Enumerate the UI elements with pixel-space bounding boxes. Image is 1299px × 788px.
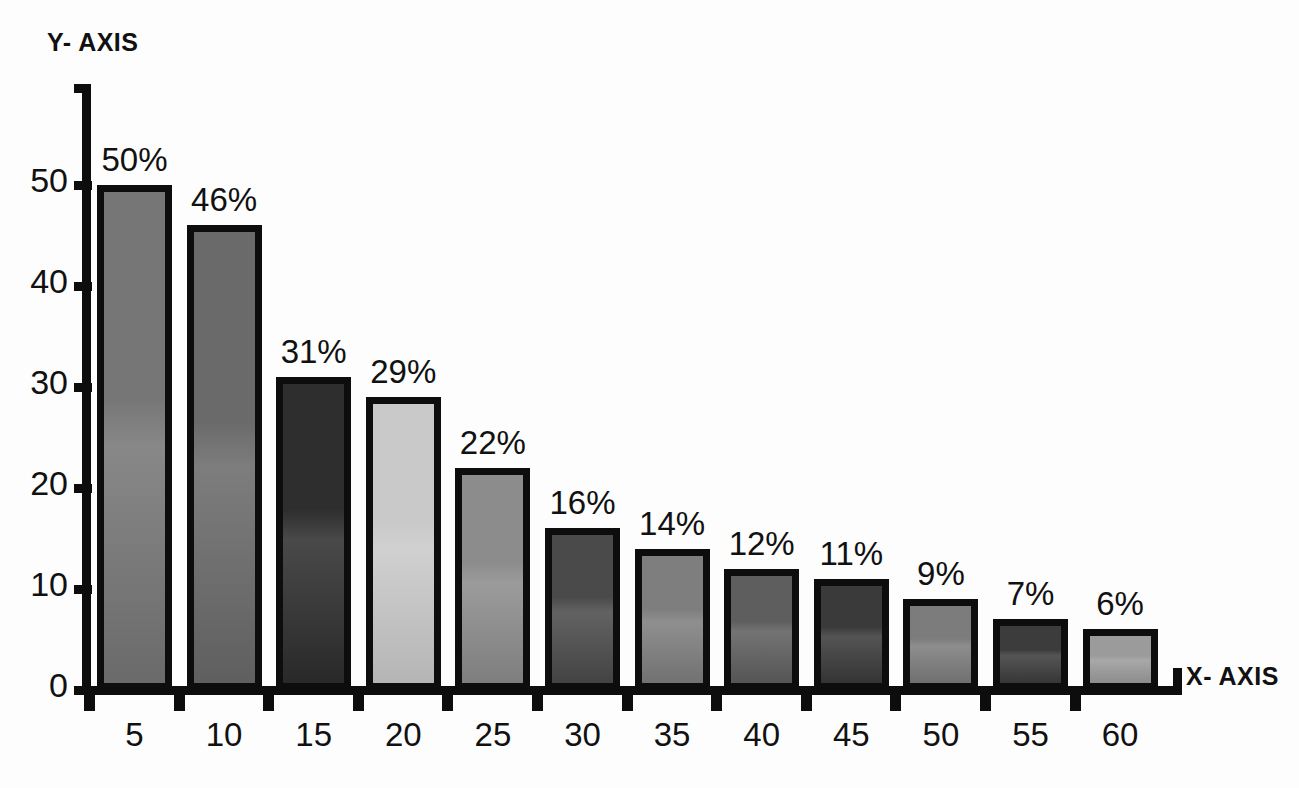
y-axis-tick-label: 10 (0, 565, 68, 604)
x-axis-tick-label: 30 (538, 716, 628, 754)
x-axis-tick (263, 695, 274, 711)
bar-value-label: 50% (80, 141, 190, 179)
bar-fill (194, 232, 255, 683)
x-axis-tick (622, 695, 633, 711)
bar[interactable] (1083, 629, 1158, 690)
x-axis-tick (442, 695, 453, 711)
x-axis-tick-label: 35 (627, 716, 717, 754)
x-axis-tick-label: 50 (896, 716, 986, 754)
x-axis-tick (980, 695, 991, 711)
x-axis-tick (532, 695, 543, 711)
bar[interactable] (276, 377, 351, 690)
bar-fill (462, 475, 523, 683)
x-axis-tick-label: 45 (806, 716, 896, 754)
bar-fill (283, 384, 344, 683)
y-axis-tick (74, 181, 92, 190)
x-axis-tick-label: 40 (717, 716, 807, 754)
bar[interactable] (724, 569, 799, 690)
y-axis-tick-label: 30 (0, 363, 68, 402)
x-axis-tick-label: 20 (358, 716, 448, 754)
bar-fill (910, 606, 971, 683)
bar[interactable] (903, 599, 978, 690)
x-axis-tick-label: 15 (269, 716, 359, 754)
y-axis-title: Y- AXIS (47, 28, 139, 57)
bar[interactable] (455, 468, 530, 690)
y-axis-tick (74, 585, 92, 594)
bar-fill (552, 535, 613, 683)
x-axis-tick (174, 695, 185, 711)
y-axis-tick-label: 20 (0, 464, 68, 503)
x-axis-tick-label: 55 (986, 716, 1076, 754)
x-axis-title: X- AXIS (1186, 662, 1279, 691)
bar-fill (821, 586, 882, 683)
x-axis-tick (353, 695, 364, 711)
bar-value-label: 22% (438, 424, 548, 462)
bar[interactable] (814, 579, 889, 690)
bar-value-label: 6% (1065, 585, 1175, 623)
bar[interactable] (545, 528, 620, 690)
bar[interactable] (187, 225, 262, 690)
y-axis-top-cap (74, 84, 91, 93)
x-axis-tick-label: 25 (448, 716, 538, 754)
bar-fill (1090, 636, 1151, 683)
x-axis-end-cap (1173, 668, 1182, 695)
x-axis-tick (1070, 695, 1081, 711)
bar-fill (1000, 626, 1061, 683)
bar-fill (642, 556, 703, 683)
bar-value-label: 46% (169, 181, 279, 219)
bar-chart: Y- AXIS X- AXIS 01020304050 510152025303… (0, 0, 1299, 788)
bar-fill (104, 192, 165, 683)
x-axis-tick-label: 5 (90, 716, 180, 754)
y-axis-tick (74, 282, 92, 291)
bar[interactable] (366, 397, 441, 690)
y-axis-tick-label: 40 (0, 262, 68, 301)
bar[interactable] (635, 549, 710, 690)
y-axis-tick (74, 686, 92, 695)
bar[interactable] (97, 185, 172, 690)
y-axis-tick (74, 383, 92, 392)
bar-fill (731, 576, 792, 683)
y-axis-tick-label: 50 (0, 161, 68, 200)
x-axis-tick (711, 695, 722, 711)
x-axis-tick (801, 695, 812, 711)
x-axis-tick (84, 695, 95, 711)
bar-value-label: 29% (348, 353, 458, 391)
bar[interactable] (993, 619, 1068, 690)
y-axis-tick-label: 0 (0, 666, 68, 705)
bar-fill (373, 404, 434, 683)
x-axis-tick-label: 60 (1075, 716, 1165, 754)
y-axis-tick (74, 484, 92, 493)
x-axis-tick (890, 695, 901, 711)
x-axis-tick-label: 10 (179, 716, 269, 754)
